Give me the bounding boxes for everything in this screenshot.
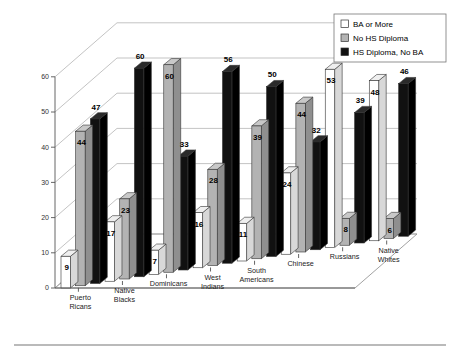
- legend-swatch: [341, 34, 349, 42]
- legend-swatch: [341, 48, 349, 56]
- bar-value-label: 16: [194, 220, 203, 229]
- svg-text:Indians: Indians: [201, 282, 225, 291]
- legend-label: No HS Diploma: [353, 34, 409, 43]
- bar-value-label: 50: [268, 70, 277, 79]
- bar-value-label: 17: [106, 229, 115, 238]
- bar-value-label: 33: [180, 140, 189, 149]
- svg-text:Dominicans: Dominicans: [150, 279, 188, 288]
- svg-text:Russians: Russians: [330, 252, 360, 261]
- bar-value-label: 60: [165, 72, 174, 81]
- svg-text:South: South: [247, 266, 266, 275]
- legend-label: BA or More: [353, 20, 394, 29]
- svg-text:Whites: Whites: [378, 255, 400, 264]
- legend-label: HS Diploma, No BA: [353, 48, 424, 57]
- chart-canvas: 4664839853324424503911562816336076023174…: [0, 0, 460, 359]
- bar-value-label: 24: [282, 180, 291, 189]
- bar-chart-3d: 4664839853324424503911562816336076023174…: [0, 0, 460, 359]
- bar-value-label: 48: [371, 88, 380, 97]
- svg-text:West: West: [204, 273, 220, 282]
- y-axis-tick-label: 20: [41, 214, 49, 221]
- svg-text:Puerto: Puerto: [70, 293, 91, 302]
- chart-legend: BA or MoreNo HS DiplomaHS Diploma, No BA: [334, 14, 446, 62]
- bar-value-label: 56: [224, 55, 233, 64]
- bar-value-label: 44: [77, 138, 86, 147]
- y-axis-tick-label: 40: [41, 144, 49, 151]
- bar-value-label: 53: [327, 76, 336, 85]
- svg-text:Blacks: Blacks: [114, 295, 136, 304]
- svg-text:Native: Native: [378, 246, 398, 255]
- y-axis-tick-label: 30: [41, 179, 49, 186]
- y-axis-tick-label: 0: [45, 284, 49, 291]
- bar-value-label: 39: [253, 133, 262, 142]
- bar-value-label: 60: [136, 52, 145, 61]
- bar-value-label: 7: [153, 257, 158, 266]
- svg-text:Ricans: Ricans: [69, 302, 91, 311]
- bar-value-label: 11: [239, 230, 248, 239]
- y-axis-tick-label: 60: [41, 73, 49, 80]
- bar-value-label: 6: [387, 226, 392, 235]
- svg-text:Native: Native: [114, 286, 134, 295]
- y-axis-tick-label: 10: [41, 249, 49, 256]
- bar-value-label: 46: [400, 67, 409, 76]
- svg-text:Americans: Americans: [240, 275, 274, 284]
- bar-value-label: 32: [312, 126, 321, 135]
- svg-text:Chinese: Chinese: [287, 259, 313, 268]
- bar-no-hs-diploma: [164, 59, 181, 273]
- bar-value-label: 9: [64, 263, 69, 272]
- legend-swatch: [341, 20, 349, 28]
- bar-value-label: 47: [92, 103, 101, 112]
- bar-value-label: 23: [121, 206, 130, 215]
- bar-value-label: 28: [209, 176, 218, 185]
- bar-value-label: 8: [343, 225, 348, 234]
- bar-value-label: 39: [356, 96, 365, 105]
- bar-value-label: 44: [297, 110, 306, 119]
- y-axis-tick-label: 50: [41, 108, 49, 115]
